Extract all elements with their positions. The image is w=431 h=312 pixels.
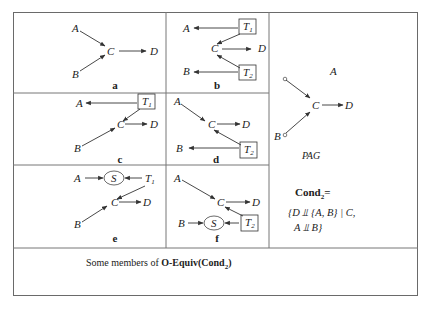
node-D: D	[251, 196, 260, 208]
panel-c: A T1 C D B c	[74, 94, 158, 165]
node-B: B	[178, 217, 185, 229]
node-A: A	[73, 172, 81, 184]
node-D: D	[149, 45, 158, 57]
figure-caption: Some members of O-Equiv(Cond2)	[86, 257, 231, 271]
node-A: A	[173, 95, 181, 107]
caption-bold: O-Equiv(Cond	[161, 257, 224, 268]
condition-title-suffix: =	[324, 186, 330, 198]
panel-f: A C D B S T2 f	[173, 172, 260, 244]
node-T1: T1	[145, 172, 155, 186]
node-D: D	[241, 118, 250, 130]
node-D: D	[142, 196, 151, 208]
caption-prefix: Some members of	[86, 257, 161, 268]
panel-label-a: a	[112, 79, 118, 91]
node-S: S	[211, 217, 217, 229]
node-D: D	[344, 99, 353, 111]
panel-b: A T1 C D T2 B b	[182, 19, 266, 91]
node-S: S	[111, 172, 117, 184]
node-C: C	[217, 196, 225, 208]
condition-title: Cond2=	[295, 186, 330, 201]
panel-label-e: e	[113, 232, 118, 244]
node-B: B	[74, 218, 81, 230]
panel-label-f: f	[215, 232, 219, 244]
panel-a: A B C D a	[71, 22, 158, 91]
panel-e: A S T1 C D B e	[73, 171, 155, 244]
node-A: A	[182, 22, 190, 34]
node-C: C	[312, 99, 320, 111]
pag-diagram: A C D B	[274, 65, 353, 142]
node-A: A	[75, 97, 83, 109]
panel-label-d: d	[213, 153, 219, 165]
caption-suffix: )	[228, 257, 231, 268]
node-A: A	[71, 22, 79, 34]
condition-title-text: Cond	[295, 186, 321, 198]
panel-label-c: c	[118, 153, 123, 165]
node-D: D	[257, 42, 266, 54]
panel-label-b: b	[214, 79, 220, 91]
pag-label: PAG	[302, 150, 320, 161]
node-C: C	[117, 118, 125, 130]
node-B: B	[74, 142, 81, 154]
condition-line-1: {D ⫫ {A, B} | C,	[288, 207, 355, 219]
node-B: B	[176, 142, 183, 154]
condition-line-2: A ⫫ B}	[294, 222, 322, 234]
node-B: B	[274, 130, 281, 142]
node-A: A	[173, 172, 181, 184]
node-D: D	[149, 118, 158, 130]
node-B: B	[183, 65, 190, 77]
node-B: B	[72, 68, 79, 80]
node-C: C	[208, 118, 216, 130]
node-A: A	[329, 65, 337, 77]
node-C: C	[107, 45, 115, 57]
node-C: C	[111, 196, 119, 208]
panel-d: A C D T2 B d	[173, 95, 257, 165]
